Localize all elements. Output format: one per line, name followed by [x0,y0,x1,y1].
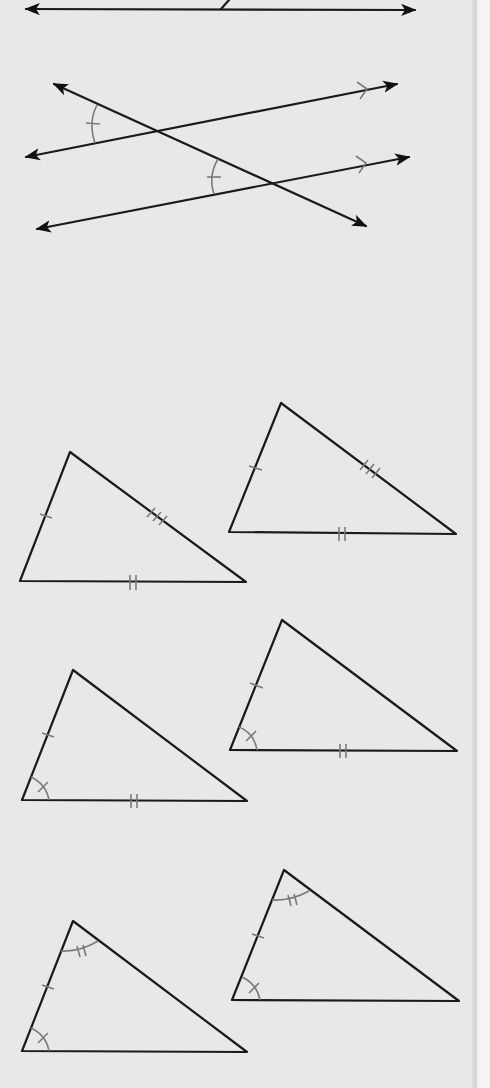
angle-tick-icon [288,895,291,906]
triangle-right [232,870,459,1001]
angle-tick-icon [77,946,80,957]
triangle-right [230,620,457,751]
triangle-pair-sss [20,403,456,590]
angle-tick-icon [294,894,297,905]
angle-arc-icon [242,977,260,1000]
triangle-left [22,921,247,1052]
triangle-pair-sas [22,620,457,808]
triangle-pair-asa [22,870,459,1052]
diagonal-segment [221,0,229,9]
triangle-left [22,670,247,801]
geometry-diagram [0,0,490,1088]
triangle-left [20,452,246,582]
transversal-line [54,84,366,226]
angle-arc-icon [61,941,98,951]
parallel-line-lower [37,157,409,229]
angle-arc-icon [31,777,49,800]
parallel-lines-figure [26,82,409,229]
triangle-right [229,403,456,534]
angle-tick-icon [86,123,100,124]
parallel-mark-icon [356,156,366,173]
angle-arc-icon [272,891,309,900]
angle-arc-icon [31,1028,49,1051]
top-line-figure [26,0,415,10]
parallel-line-upper [26,84,397,157]
